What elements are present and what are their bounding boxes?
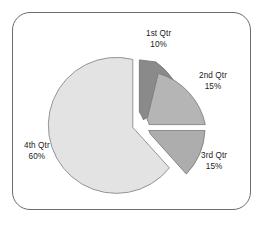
pie-label-1st-qtr: 1st Qtr 10%: [146, 29, 171, 50]
pie-label-2nd-qtr: 2nd Qtr 15%: [199, 71, 227, 92]
pie-slices: [48, 57, 205, 193]
pie-label-4th-qtr-name: 4th Qtr: [24, 141, 50, 152]
pie-chart-graphic: [0, 0, 265, 226]
pie-label-1st-qtr-value: 10%: [146, 40, 171, 51]
pie-label-2nd-qtr-value: 15%: [199, 82, 227, 93]
pie-label-3rd-qtr: 3rd Qtr 15%: [201, 151, 227, 172]
pie-label-2nd-qtr-name: 2nd Qtr: [199, 71, 227, 82]
pie-chart-figure: 1st Qtr 10% 2nd Qtr 15% 3rd Qtr 15% 4th …: [0, 0, 265, 226]
pie-label-4th-qtr: 4th Qtr 60%: [24, 141, 50, 162]
pie-label-1st-qtr-name: 1st Qtr: [146, 29, 171, 40]
pie-label-3rd-qtr-name: 3rd Qtr: [201, 151, 227, 162]
pie-label-4th-qtr-value: 60%: [24, 152, 50, 163]
pie-label-3rd-qtr-value: 15%: [201, 162, 227, 173]
